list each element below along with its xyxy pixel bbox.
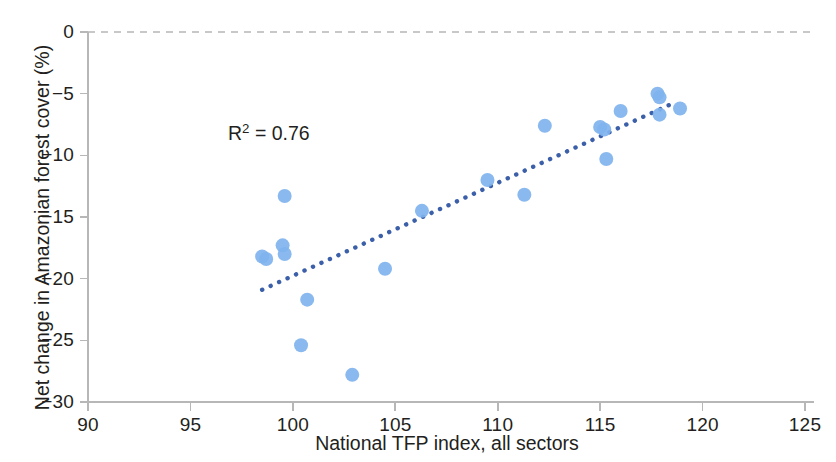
x-axis-title: National TFP index, all sectors <box>88 432 806 455</box>
scatter-chart: 0−5−10−15−20−25−30 909510010511011512012… <box>0 0 836 462</box>
r-squared-value: = 0.76 <box>249 122 309 144</box>
r-squared-annotation: R2 = 0.76 <box>228 122 310 145</box>
axis-tick-marks <box>80 32 805 411</box>
y-axis-title: Net change in Amazonian forest cover (%) <box>31 28 54 428</box>
axis-lines <box>88 32 814 402</box>
r-squared-base: R <box>228 122 242 144</box>
data-points <box>255 87 687 382</box>
plot-area <box>0 0 836 462</box>
